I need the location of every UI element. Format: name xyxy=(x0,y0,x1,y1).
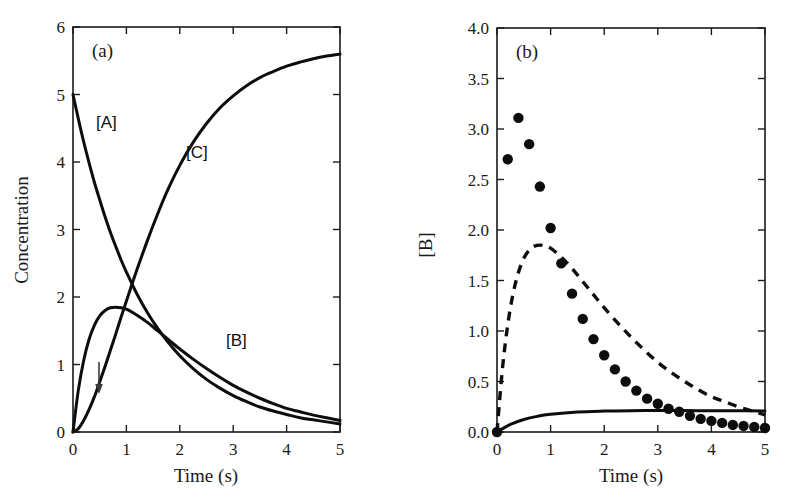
panel-a-ytick-2: 2 xyxy=(57,288,66,307)
panel-a-xtick-2: 2 xyxy=(176,440,185,459)
data-point xyxy=(492,427,502,437)
panel-b-ytick-4: 2.0 xyxy=(468,221,489,240)
data-point xyxy=(706,416,716,426)
panel-b-xlabel: Time (s) xyxy=(599,465,663,487)
panel-a-ytick-3: 3 xyxy=(57,221,66,240)
data-point xyxy=(599,350,609,360)
curve-label-B: [B] xyxy=(226,331,247,350)
panel-b-ytick-5: 2.5 xyxy=(468,171,489,190)
panel-a-xlabel: Time (s) xyxy=(174,465,238,487)
panel-b-x-ticks xyxy=(497,28,765,432)
data-point xyxy=(695,414,705,424)
panel-a-ytick-5: 5 xyxy=(57,86,66,105)
data-point xyxy=(642,393,652,403)
data-point xyxy=(674,407,684,417)
panel-b-ytick-1: 0.5 xyxy=(468,373,489,392)
panel-b-label: (b) xyxy=(516,41,538,63)
panel-a-xtick-5: 5 xyxy=(336,440,345,459)
data-point xyxy=(663,404,673,414)
panel-b-xtick-3: 3 xyxy=(654,440,663,459)
panel-b: 0.0 0.5 1.0 1.5 2.0 2.5 3.0 3.5 4.0 0 1 … xyxy=(415,19,770,487)
curve-b-dashed-model xyxy=(497,245,765,432)
data-point xyxy=(728,420,738,430)
curve-label-A: [A] xyxy=(96,113,117,132)
data-point xyxy=(653,399,663,409)
data-point xyxy=(578,314,588,324)
data-point xyxy=(524,139,534,149)
panel-b-frame xyxy=(497,28,765,432)
panel-b-ylabel: [B] xyxy=(415,232,436,257)
data-point xyxy=(717,418,727,428)
data-point xyxy=(631,385,641,395)
panel-a-xtick-1: 1 xyxy=(122,440,131,459)
panel-a-ytick-1: 1 xyxy=(57,356,66,375)
data-point xyxy=(588,334,598,344)
panel-b-xtick-2: 2 xyxy=(600,440,609,459)
data-point xyxy=(535,181,545,191)
panel-b-ytick-3: 1.5 xyxy=(468,272,489,291)
data-point xyxy=(610,364,620,374)
panel-a-ylabel: Concentration xyxy=(11,176,32,284)
data-point xyxy=(545,223,555,233)
panel-a-ytick-4: 4 xyxy=(57,153,66,172)
data-point xyxy=(556,258,566,268)
panel-b-xtick-5: 5 xyxy=(761,440,770,459)
panel-b-ytick-0: 0.0 xyxy=(468,423,489,442)
panel-b-ytick-2: 1.0 xyxy=(468,322,489,341)
panel-b-xtick-0: 0 xyxy=(493,440,502,459)
data-point xyxy=(738,421,748,431)
data-point xyxy=(749,422,759,432)
data-point xyxy=(685,411,695,421)
data-point xyxy=(503,154,513,164)
panel-a-xtick-0: 0 xyxy=(69,440,78,459)
curve-a-species-B xyxy=(73,307,340,432)
panel-b-y-ticks xyxy=(497,28,765,432)
figure-svg: 0 1 2 3 4 5 6 0 1 2 3 4 5 Time (s) Conce… xyxy=(0,0,792,497)
curve-label-C: [C] xyxy=(186,143,208,162)
panel-a: 0 1 2 3 4 5 6 0 1 2 3 4 5 Time (s) Conce… xyxy=(11,18,344,487)
data-point xyxy=(760,423,770,433)
data-point xyxy=(567,288,577,298)
panel-b-xtick-4: 4 xyxy=(707,440,716,459)
panel-a-xtick-3: 3 xyxy=(229,440,238,459)
panel-a-frame xyxy=(73,27,340,432)
panel-b-xtick-1: 1 xyxy=(546,440,555,459)
scatter-points-group xyxy=(492,113,770,438)
data-point xyxy=(620,376,630,386)
data-point xyxy=(513,113,523,123)
panel-b-ytick-8: 4.0 xyxy=(468,19,489,38)
panel-a-ytick-0: 0 xyxy=(57,423,66,442)
panel-b-ytick-7: 3.5 xyxy=(468,70,489,89)
panel-b-ytick-6: 3.0 xyxy=(468,120,489,139)
figure-container: 0 1 2 3 4 5 6 0 1 2 3 4 5 Time (s) Conce… xyxy=(0,0,792,497)
panel-a-ytick-6: 6 xyxy=(57,18,66,37)
panel-a-y-ticks xyxy=(73,27,340,432)
panel-a-label: (a) xyxy=(92,40,113,62)
panel-a-x-ticks xyxy=(73,27,340,432)
panel-a-xtick-4: 4 xyxy=(282,440,291,459)
